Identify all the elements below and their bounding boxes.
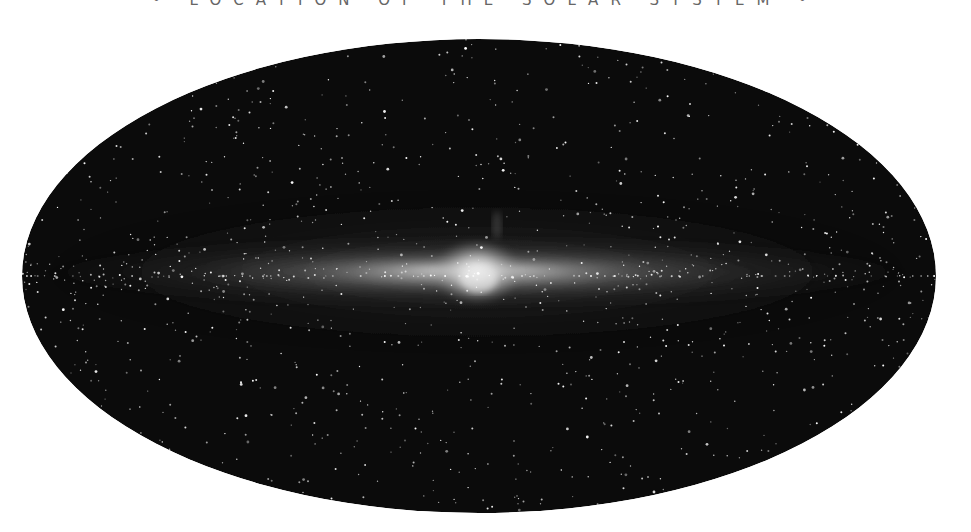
sky-map-svg bbox=[0, 0, 971, 532]
vertical-plume bbox=[492, 211, 502, 239]
milky-way-sky-map bbox=[0, 0, 971, 532]
galactic-nucleus bbox=[461, 265, 497, 293]
sky-ellipse bbox=[7, 39, 947, 513]
